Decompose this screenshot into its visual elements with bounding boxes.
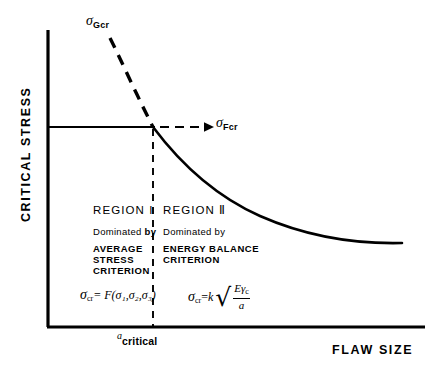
equation-fraction: Eγca [231, 283, 252, 311]
sigma-fcr-label: σFcr [216, 116, 238, 132]
region-1-title: REGION I [93, 205, 154, 217]
region-1-criterion: AVERAGE STRESS CRITERION [93, 243, 150, 276]
sigma-fcr-symbol: σ [216, 115, 223, 130]
sigma-fcr-arrowhead [204, 122, 214, 132]
square-root-icon: √Eγca [215, 284, 252, 312]
region-1-equation-sigma: σ [80, 287, 87, 302]
sigma-gcr-symbol: σ [86, 13, 93, 28]
region-1-criterion-line-1: AVERAGE [93, 243, 150, 254]
numerator-E: E [234, 282, 241, 294]
fraction-numerator: Eγc [233, 283, 250, 298]
a-critical-subscript: critical [122, 335, 157, 347]
sigma-gcr-dashed-curve [110, 38, 153, 127]
region-1-criterion-line-3: CRITERION [93, 265, 150, 276]
y-axis-title: CRITICAL STRESS [20, 84, 33, 224]
region-2-criterion-line-2: CRITERION [163, 254, 259, 265]
region-2-equation-equals: = [201, 290, 208, 304]
region-2-dominated-by: Dominated by [163, 227, 225, 237]
region-1-dominated-prefix: Dominated [93, 226, 145, 237]
x-axis-title: FLAW SIZE [332, 344, 413, 357]
region-2-equation-sigma: σ [188, 289, 195, 304]
region-1-equation: σcr= F(σ₁,σ₂,σ₃) [80, 288, 156, 303]
region-2-criterion: ENERGY BALANCE CRITERION [163, 243, 259, 265]
region-1-criterion-line-2: STRESS [93, 254, 150, 265]
region-1-dominated-by: Dominated by [93, 227, 156, 237]
radical-sign: √ [215, 288, 231, 308]
region-1-dominated-by-word: by [145, 226, 157, 237]
region-1-equation-rhs: = F(σ₁,σ₂,σ₃) [93, 288, 156, 302]
sigma-gcr-subscript: Gcr [93, 20, 109, 30]
region-2-dominated-by-word: by [215, 226, 226, 237]
region-2-criterion-line-1: ENERGY BALANCE [163, 243, 259, 254]
numerator-gamma-subscript: c [245, 287, 249, 296]
sigma-fcr-subscript: Fcr [223, 122, 238, 132]
region-2-equation: σcr=k√Eγca [188, 284, 252, 312]
region-2-title: REGION Ⅱ [163, 205, 226, 217]
a-critical-tick-label: acritical [117, 331, 157, 347]
fraction-denominator: a [233, 298, 250, 311]
region-2-equation-k: k [208, 290, 213, 304]
critical-stress-vs-flaw-size-figure: CRITICAL STRESS FLAW SIZE σGcr σFcr REGI… [0, 0, 448, 370]
figure-canvas [0, 0, 448, 370]
sigma-gcr-label: σGcr [86, 14, 109, 30]
region-2-dominated-prefix: Dominated [163, 226, 215, 237]
